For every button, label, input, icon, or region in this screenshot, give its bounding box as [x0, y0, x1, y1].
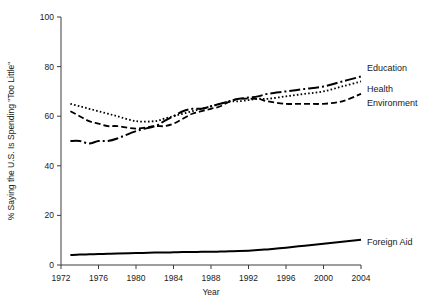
x-tick-label: 2000 — [314, 273, 333, 283]
x-tick-label: 1988 — [202, 273, 221, 283]
line-chart: 020406080100 197219761980198419881992199… — [0, 0, 428, 298]
series-label-health: Health — [367, 84, 393, 94]
series-inline-labels: EducationHealthEnvironmentForeign Aid — [367, 63, 418, 247]
y-tick-label: 60 — [45, 111, 55, 121]
series-line-foreign-aid — [70, 240, 361, 255]
x-tick-label: 1972 — [52, 273, 71, 283]
y-tick-label: 100 — [40, 12, 54, 22]
x-tick-label: 1976 — [89, 273, 108, 283]
x-tick-label: 1980 — [127, 273, 146, 283]
x-tick-label: 1984 — [164, 273, 183, 283]
series-line-environment — [70, 94, 361, 129]
series-lines — [70, 77, 361, 256]
y-tick-label: 0 — [49, 260, 54, 270]
y-axis-ticks: 020406080100 — [40, 12, 61, 270]
y-tick-label: 40 — [45, 161, 55, 171]
series-label-foreign-aid: Foreign Aid — [367, 237, 413, 247]
x-tick-label: 1996 — [277, 273, 296, 283]
y-tick-label: 80 — [45, 62, 55, 72]
x-axis-title: Year — [202, 287, 219, 297]
y-tick-label: 20 — [45, 210, 55, 220]
series-line-education — [70, 77, 361, 144]
x-axis-ticks: 197219761980198419881992199620002004 — [52, 265, 371, 283]
y-axis-title: % Saying the U.S. Is Spending "Too Littl… — [6, 62, 16, 221]
chart-container: 020406080100 197219761980198419881992199… — [0, 0, 428, 298]
x-tick-label: 1992 — [239, 273, 258, 283]
series-label-environment: Environment — [367, 98, 418, 108]
series-label-education: Education — [367, 63, 407, 73]
x-tick-label: 2004 — [352, 273, 371, 283]
